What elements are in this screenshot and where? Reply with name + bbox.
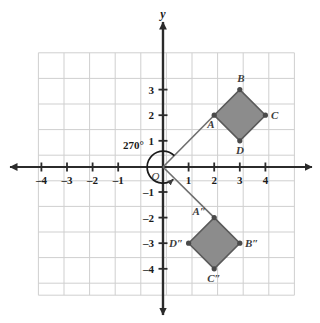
diagram-canvas: y –4 –3 –2 –1 1 2 3 4 3 2 1 –1 –2 –3 –4 …: [0, 0, 320, 323]
quadrilateral-abcd-image: A″ B″ C″ D″: [168, 205, 258, 284]
y-tick-label: 3: [149, 84, 155, 96]
x-tick-label: –4: [35, 174, 48, 186]
x-tick-label: –3: [61, 174, 74, 186]
y-tick-label: –2: [142, 212, 155, 224]
y-tick-label: 2: [149, 109, 155, 121]
vertex-d-image: [186, 241, 191, 246]
vertex-label-d: D: [235, 144, 244, 156]
x-tick-label: 1: [186, 174, 192, 186]
y-axis-label: y: [158, 7, 166, 21]
vertex-b: [237, 87, 242, 92]
vertex-label-d-image: D″: [168, 237, 183, 249]
vertex-c: [263, 113, 268, 118]
vertex-c-image: [212, 266, 217, 271]
vertex-d: [237, 138, 242, 143]
vertex-label-a: A: [206, 118, 214, 130]
vertex-label-a-image: A″: [192, 205, 206, 217]
vertex-a-image: [212, 215, 217, 220]
vertex-label-b: B: [236, 72, 244, 84]
vertex-b-image: [237, 241, 242, 246]
origin-label: O: [152, 170, 160, 182]
vertex-label-c-image: C″: [207, 272, 220, 284]
angle-label: 270°: [123, 139, 144, 151]
x-tick-label: 3: [237, 174, 243, 186]
y-tick-label: 1: [149, 135, 155, 147]
vertex-label-b-image: B″: [244, 237, 258, 249]
x-tick-label: 2: [211, 174, 217, 186]
shape-abcd-image: [189, 218, 240, 269]
y-tick-label: –3: [142, 237, 155, 249]
vertex-label-c: C: [271, 109, 279, 121]
coordinate-plane-svg: y –4 –3 –2 –1 1 2 3 4 3 2 1 –1 –2 –3 –4 …: [0, 0, 320, 323]
y-tick-label: –1: [142, 186, 154, 198]
x-tick-label: 4: [263, 174, 269, 186]
x-tick-label: –2: [86, 174, 99, 186]
axes: [10, 22, 312, 315]
x-tick-label: –1: [112, 174, 124, 186]
y-tick-label: –4: [142, 263, 155, 275]
shape-abcd: [214, 90, 265, 141]
